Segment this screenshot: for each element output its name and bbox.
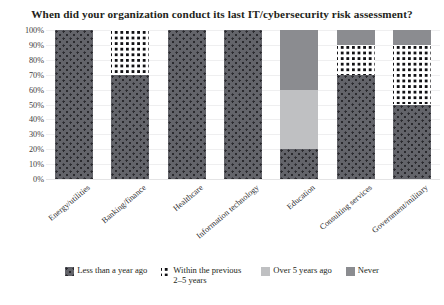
y-axis-tick-label: 60% <box>2 85 44 94</box>
legend-label: Less than a year ago <box>77 266 147 276</box>
y-axis-tick-label: 20% <box>2 145 44 154</box>
bar-segment[interactable] <box>393 30 431 45</box>
x-axis-category-label: Banking/finance <box>100 183 148 225</box>
bar-segment[interactable] <box>168 30 206 179</box>
legend-swatch-icon <box>161 267 170 276</box>
chart-title: When did your organization conduct its l… <box>0 8 444 20</box>
legend-item[interactable]: Within the previous 2–5 years <box>161 266 247 285</box>
x-axis-category-label: Consulting services <box>318 183 374 232</box>
y-axis: 100%90%80%70%60%50%40%30%20%10%0% <box>0 30 44 180</box>
legend-item[interactable]: Never <box>346 266 379 276</box>
bar-column[interactable] <box>280 30 318 179</box>
bar-segment[interactable] <box>111 30 149 75</box>
y-axis-tick-label: 70% <box>2 70 44 79</box>
bar-segment[interactable] <box>393 105 431 180</box>
legend-swatch-icon <box>261 267 270 276</box>
bar-segment[interactable] <box>280 90 318 150</box>
bar-segment[interactable] <box>224 30 262 179</box>
x-axis-category-label: Energy/utilities <box>47 183 92 223</box>
y-axis-tick-label: 50% <box>2 100 44 109</box>
legend-item[interactable]: Less than a year ago <box>65 266 147 276</box>
x-axis-category-label: Information technology <box>195 183 261 240</box>
y-axis-tick-label: 0% <box>2 175 44 184</box>
bar-segment[interactable] <box>111 75 149 179</box>
x-axis-category-label: Education <box>285 183 317 212</box>
legend-label: Never <box>358 266 379 276</box>
bar-segment[interactable] <box>337 30 375 45</box>
legend-label: Within the previous 2–5 years <box>173 266 247 285</box>
legend-swatch-icon <box>346 267 355 276</box>
x-axis-category-label: Healthcare <box>171 183 204 213</box>
y-axis-tick-label: 40% <box>2 115 44 124</box>
y-axis-tick-label: 80% <box>2 55 44 64</box>
y-axis-tick-label: 90% <box>2 40 44 49</box>
y-axis-tick-label: 10% <box>2 160 44 169</box>
bar-column[interactable] <box>168 30 206 179</box>
legend-label: Over 5 years ago <box>273 266 331 276</box>
y-axis-tick-label: 100% <box>2 26 44 35</box>
bar-segment[interactable] <box>280 149 318 179</box>
bar-segment[interactable] <box>55 30 93 179</box>
bar-column[interactable] <box>337 30 375 179</box>
bar-column[interactable] <box>55 30 93 179</box>
bar-segment[interactable] <box>393 45 431 105</box>
plot-area <box>46 30 440 179</box>
bar-segment[interactable] <box>337 75 375 179</box>
x-axis-category-label: Government/military <box>370 183 429 235</box>
bar-segment[interactable] <box>337 45 375 75</box>
bar-column[interactable] <box>111 30 149 179</box>
bar-column[interactable] <box>224 30 262 179</box>
chart-legend: Less than a year agoWithin the previous … <box>0 266 444 285</box>
x-axis-baseline <box>46 179 440 180</box>
y-axis-tick-label: 30% <box>2 130 44 139</box>
bar-segment[interactable] <box>280 30 318 90</box>
bar-column[interactable] <box>393 30 431 179</box>
legend-item[interactable]: Over 5 years ago <box>261 266 331 276</box>
legend-swatch-icon <box>65 267 74 276</box>
